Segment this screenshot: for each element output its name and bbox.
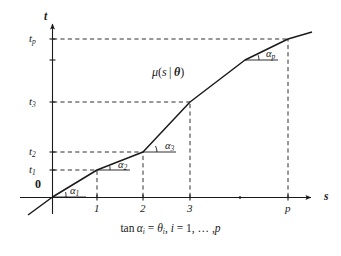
angle-label-alpha-2-sub: 2	[124, 163, 128, 172]
caption-index: i	[171, 222, 174, 234]
x-tick-label-3: 3	[187, 203, 193, 214]
x-tick-label-1: 1	[94, 203, 100, 214]
x-axis	[20, 195, 311, 201]
y-tick-label-tp: tp	[29, 33, 36, 46]
figure-container: t s 0 tp t3 t2 t1 1 2 3 p α1 α2 α3 αp μ(…	[0, 0, 341, 256]
angle-label-alpha-p: αp	[266, 49, 275, 61]
angle-label-alpha-p-sub: p	[272, 52, 276, 61]
angle-label-alpha-1-sub: 1	[76, 189, 80, 198]
plot-canvas	[0, 0, 341, 256]
paren-close: )	[180, 65, 184, 79]
caption-ellipsis: , … ,	[192, 222, 215, 234]
caption-alpha-sub: i	[143, 227, 145, 236]
guide-lines	[53, 39, 288, 197]
x-axis-label: s	[324, 191, 328, 203]
y-tick-label-t1-sub: 1	[32, 168, 36, 177]
angle-arc-3	[156, 146, 158, 152]
y-tick-label-t3-sub: 3	[32, 100, 36, 109]
caption-p: p	[215, 222, 221, 234]
origin-label: 0	[35, 178, 41, 190]
caption-equals: =	[148, 222, 155, 234]
angle-label-alpha-3: α3	[165, 141, 174, 153]
x-tick-label-p: p	[285, 203, 291, 214]
x-tick-label-2: 2	[140, 203, 146, 214]
y-axis	[50, 24, 56, 214]
curve-equation-label: μ(s | θ)	[152, 66, 184, 78]
angle-label-alpha-2: α2	[118, 160, 127, 172]
caption-tan: tan	[120, 222, 134, 234]
caption-comma: ,	[165, 222, 168, 234]
y-axis-label: t	[44, 11, 47, 23]
y-tick-label-t1: t1	[29, 164, 36, 177]
x-ellipsis-dot	[239, 196, 242, 199]
y-tick-label-t2-sub: 2	[32, 150, 36, 159]
y-tick-label-t2: t2	[29, 146, 36, 159]
figure-caption: tan αi = θi, i = 1, … ,p	[0, 222, 341, 236]
caption-equals2: =	[177, 222, 184, 234]
angle-label-alpha-3-sub: 3	[171, 144, 175, 153]
y-tick-label-tp-sub: p	[32, 37, 36, 46]
y-tick-label-t3: t3	[29, 96, 36, 109]
angle-label-alpha-1: α1	[70, 186, 79, 198]
angle-arc-p	[258, 55, 259, 60]
